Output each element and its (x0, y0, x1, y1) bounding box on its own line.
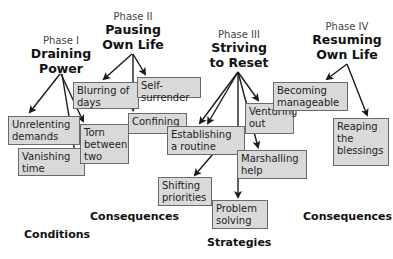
phase-3-number: Phase III (202, 29, 276, 40)
arrow-draining-to-unrelenting (30, 74, 60, 112)
phase-1-number: Phase I (24, 35, 98, 46)
phase-3-name-line1: Striving (202, 40, 276, 55)
arrow-establishing-to-shifting (195, 154, 213, 175)
phase-diagram: Phase I Draining Power Phase II Pausing … (0, 0, 393, 259)
phase-2-header: Phase II Pausing Own Life (96, 11, 170, 52)
box-problem-solving: Problem solving (212, 200, 268, 229)
box-establishing-routine: Establishing a routine (167, 126, 245, 155)
label-consequences-left: Consequences (90, 210, 179, 223)
arrow-striving-to-establishing-b (208, 72, 238, 123)
arrow-striving-to-establishing-a (200, 72, 238, 123)
box-vanishing-time: Vanishing time (18, 148, 85, 176)
box-unrelenting-demands: Unrelenting demands (8, 116, 80, 145)
phase-2-number: Phase II (96, 11, 170, 22)
phase-1-header: Phase I Draining Power (24, 35, 98, 76)
box-marshalling-help: Marshalling help (237, 150, 307, 179)
box-becoming-manageable: Becoming manageable (273, 82, 348, 111)
label-conditions: Conditions (24, 228, 90, 241)
box-self-surrender: Self-surrender (137, 77, 201, 98)
box-blurring-of-days: Blurring of days (73, 82, 139, 109)
phase-4-number: Phase IV (309, 21, 385, 32)
arrow-pausing-to-blurring (104, 54, 132, 79)
arrow-resuming-to-becoming (327, 64, 347, 79)
box-reaping-blessings: Reaping the blessings (333, 118, 389, 166)
phase-1-name-line2: Power (24, 61, 98, 76)
phase-3-header: Phase III Striving to Reset (202, 29, 276, 70)
phase-4-header: Phase IV Resuming Own Life (309, 21, 385, 62)
phase-1-name-line1: Draining (24, 46, 98, 61)
phase-3-name-line2: to Reset (202, 55, 276, 70)
phase-2-name-line2: Own Life (96, 37, 170, 52)
label-consequences-right: Consequences (303, 210, 392, 223)
box-shifting-priorities: Shifting priorities (158, 177, 212, 206)
phase-4-name-line1: Resuming (309, 32, 385, 47)
label-strategies: Strategies (207, 236, 271, 249)
phase-2-name-line1: Pausing (96, 22, 170, 37)
phase-4-name-line2: Own Life (309, 47, 385, 62)
box-torn-between-two: Torn between two (80, 124, 129, 164)
arrow-pausing-to-selfsurrender (133, 54, 145, 74)
arrow-striving-to-venturing (238, 72, 258, 100)
arrow-resuming-to-reaping (347, 64, 367, 115)
